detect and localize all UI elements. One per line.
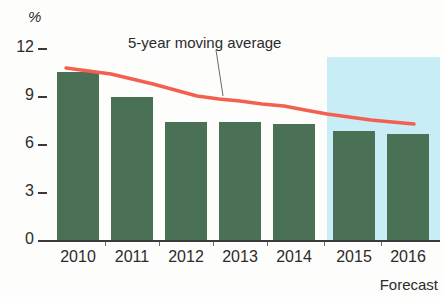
y-tick-label-12: 12 — [8, 38, 34, 56]
x-tick-label-2016: 2016 — [380, 248, 436, 266]
bar-2013 — [219, 122, 261, 240]
bar-2012 — [165, 122, 207, 240]
bar-2014 — [273, 124, 315, 240]
y-tick-dash-3 — [38, 192, 47, 194]
y-axis-unit-label: % — [28, 8, 42, 25]
bar-2016 — [387, 134, 429, 240]
x-tick-mark-4 — [324, 242, 325, 246]
x-tick-mark-3 — [267, 242, 268, 246]
bar-2011 — [111, 97, 153, 240]
x-tick-mark-1 — [159, 242, 160, 246]
y-tick-label-6: 6 — [8, 134, 34, 152]
bar-2015 — [333, 131, 375, 240]
y-tick-dash-12 — [38, 48, 47, 50]
x-tick-mark-2 — [213, 242, 214, 246]
y-tick-label-3: 3 — [8, 182, 34, 200]
y-tick-label-9: 9 — [8, 86, 34, 104]
y-tick-label-0: 0 — [8, 230, 34, 248]
x-tick-label-2010: 2010 — [50, 248, 106, 266]
x-tick-mark-5 — [381, 242, 382, 246]
x-tick-mark-0 — [105, 242, 106, 246]
annotation-leader-line — [216, 50, 223, 96]
x-tick-label-2014: 2014 — [266, 248, 322, 266]
forecast-caption: Forecast — [380, 276, 438, 293]
y-tick-dash-9 — [38, 96, 47, 98]
y-tick-dash-0 — [38, 240, 47, 242]
moving-average-annotation: 5-year moving average — [128, 34, 281, 51]
bar-2010 — [57, 72, 99, 240]
x-tick-label-2015: 2015 — [326, 248, 382, 266]
y-tick-dash-6 — [38, 144, 47, 146]
chart-container: % 12 9 6 3 0 2010 2011 2012 2013 2014 20… — [0, 0, 444, 297]
x-tick-label-2011: 2011 — [104, 248, 160, 266]
x-tick-label-2012: 2012 — [158, 248, 214, 266]
x-tick-label-2013: 2013 — [212, 248, 268, 266]
